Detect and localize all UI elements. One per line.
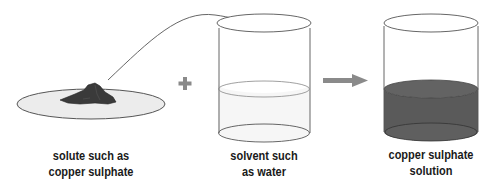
beaker-solution [384,14,478,141]
solute-label: solute such as copper sulphate [29,148,152,180]
solution-label-line2: solution [369,163,492,179]
solute-label-line1: solute such as [29,148,152,164]
solvent-label-line2: as water [202,164,325,180]
solution-label-line1: copper sulphate [369,147,492,163]
solution-label: copper sulphate solution [369,147,492,179]
solute-label-line2: copper sulphate [29,164,152,180]
solvent-label: solvent such as water [202,148,325,180]
dish-with-solute [17,83,165,119]
plus-icon [179,77,192,90]
right-arrow-icon [323,74,368,87]
beaker-water [217,14,311,142]
solvent-label-line1: solvent such [202,148,325,164]
